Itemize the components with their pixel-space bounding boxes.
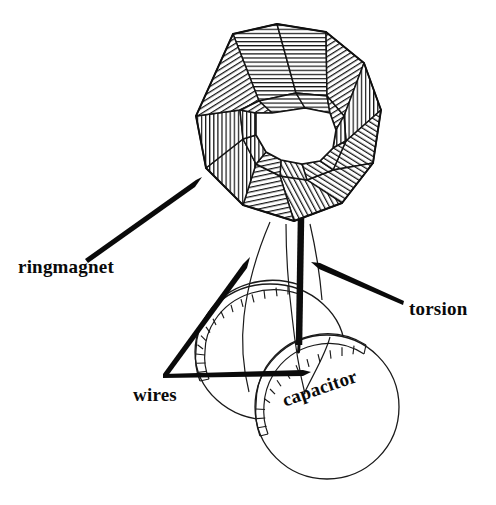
label-ringmagnet: ringmagnet <box>18 256 114 278</box>
magnet-inner-facet-10 <box>240 110 256 139</box>
capacitor-plate-lower <box>255 334 399 479</box>
technical-diagram <box>0 0 496 505</box>
figure-canvas: ringmagnet wires torsion capacitor <box>0 0 496 505</box>
capacitor-plate-lower-body <box>255 335 399 479</box>
label-wires: wires <box>133 384 177 406</box>
torsion-rod <box>299 218 302 352</box>
torsion-rod-tip <box>299 340 300 352</box>
label-torsion: torsion <box>409 298 467 320</box>
torsion-rod-shaft <box>299 218 301 345</box>
